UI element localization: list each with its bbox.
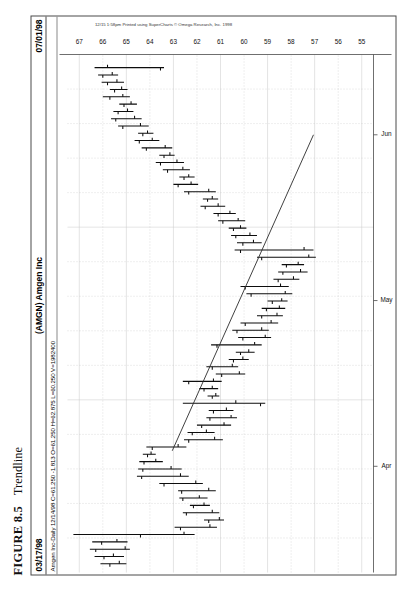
ohlc-bar: [273, 276, 299, 282]
ohlc-bar: [134, 137, 159, 143]
ohlc-bar: [213, 210, 235, 216]
ohlc-bar: [232, 327, 268, 333]
ohlc-bar: [231, 232, 257, 238]
ohlc-bar: [184, 188, 216, 194]
chart-end-date: 07/01/98: [33, 19, 43, 52]
copyright-note: 12/15 1:58pm Printed using SuperCharts ©…: [94, 21, 232, 26]
ohlc-bar: [182, 378, 221, 384]
ohlc-bar: [89, 546, 129, 552]
ohlc-bar: [92, 538, 127, 544]
ohlc-bar: [202, 196, 217, 202]
ohlc-bar: [211, 341, 262, 347]
ohlc-bars-group: [73, 64, 315, 566]
price-axis-tick-label: 55: [358, 38, 366, 45]
ohlc-bar: [159, 480, 203, 486]
price-axis-tick-label: 56: [334, 38, 342, 45]
ohlc-bar: [256, 312, 282, 318]
price-axis-tick-label: 67: [75, 38, 83, 45]
ohlc-bar: [101, 79, 123, 85]
ohlc-bar: [142, 451, 155, 457]
ohlc-bar: [138, 130, 153, 136]
ohlc-bar: [73, 531, 194, 537]
figure-caption: FIGURE 8.5Trendline: [10, 446, 25, 575]
chart-header-bar: 03/17/98 (AMGN) Amgen Inc 07/01/98: [31, 16, 46, 574]
ohlc-bar: [98, 72, 118, 78]
ohlc-bar: [102, 93, 129, 99]
gridlines-group: [67, 54, 373, 572]
ohlc-bar: [187, 429, 214, 435]
price-axis-tick-label: 57: [311, 38, 319, 45]
ohlc-bar: [179, 495, 207, 501]
price-axis-tick-label: 60: [240, 38, 248, 45]
price-axis-tick-label: 62: [193, 38, 201, 45]
ohlc-bar: [184, 436, 223, 442]
ohlc-bar: [138, 465, 182, 471]
ohlc-bar: [200, 203, 225, 209]
ohlc-bar: [162, 166, 189, 172]
ohlc-bar: [215, 371, 244, 377]
ohlc-bar: [240, 320, 278, 326]
ohlc-bar: [218, 217, 245, 223]
ohlc-bar: [235, 349, 254, 355]
chart-start-date: 03/17/98: [33, 538, 43, 571]
quote-status-strip: Amgen Inc-Daily 12/14/98 C=61.250 -1.813…: [46, 16, 57, 574]
plot-area: 67666564636261605958575655 AprMayJun 12/…: [57, 16, 395, 574]
quote-line-text: Amgen Inc-Daily 12/14/98 C=61.250 -1.813…: [48, 340, 55, 571]
price-axis-labels: 67666564636261605958575655: [75, 38, 365, 45]
time-axis-label: Jun: [381, 130, 392, 137]
ohlc-bar: [100, 560, 126, 566]
ohlc-bar: [146, 444, 186, 450]
price-axis-tick-label: 63: [169, 38, 177, 45]
ohlc-bar: [179, 174, 194, 180]
ohlc-bar: [119, 101, 137, 107]
ohlc-bar: [113, 108, 133, 114]
ohlc-bar: [94, 64, 163, 70]
figure-number: FIGURE 8.5: [10, 506, 24, 575]
ohlc-bar: [238, 334, 271, 340]
axis-group: [59, 54, 391, 572]
ohlc-bar: [189, 502, 209, 508]
price-axis-tick-label: 61: [216, 38, 224, 45]
ohlc-bar: [228, 356, 248, 362]
ohlc-bar: [111, 115, 142, 121]
time-axis-labels: AprMayJun: [380, 130, 393, 470]
ohlc-chart-svg: 67666564636261605958575655 AprMayJun 12/…: [57, 16, 395, 574]
price-axis-tick-label: 64: [146, 38, 154, 45]
rotated-page-wrapper: FIGURE 8.5Trendline 03/17/98 (AMGN) Amge…: [0, 0, 407, 589]
ohlc-bar: [207, 393, 219, 399]
ohlc-bar: [182, 509, 218, 515]
ohlc-bar: [278, 268, 307, 274]
ohlc-bar: [236, 239, 261, 245]
ohlc-bar: [267, 298, 287, 304]
ohlc-bar: [234, 247, 313, 253]
ohlc-bar: [94, 553, 123, 559]
price-axis-tick-label: 65: [122, 38, 130, 45]
ohlc-bar: [173, 181, 198, 187]
ohlc-bar: [228, 225, 246, 231]
ohlc-bar: [246, 290, 292, 296]
ohlc-bar: [261, 305, 285, 311]
ohlc-bar: [196, 422, 230, 428]
price-axis-tick-label: 59: [264, 38, 272, 45]
ohlc-bar: [136, 473, 188, 479]
copyright-text: 12/15 1:58pm Printed using SuperCharts ©…: [94, 21, 232, 26]
ohlc-bar: [141, 144, 172, 150]
time-axis-label: May: [380, 296, 393, 304]
ohlc-bar: [139, 458, 163, 464]
time-axis-label: Apr: [381, 461, 392, 469]
ohlc-bar: [256, 254, 315, 260]
ohlc-bar: [281, 261, 303, 267]
ohlc-bar: [159, 152, 174, 158]
ohlc-bar: [155, 159, 183, 165]
ohlc-bar: [174, 524, 216, 530]
ohlc-bar: [206, 414, 237, 420]
price-axis-tick-label: 58: [287, 38, 295, 45]
ohlc-bar: [178, 487, 216, 493]
chart-symbol-name: (AMGN) Amgen Inc: [33, 256, 43, 333]
price-axis-tick-label: 66: [99, 38, 107, 45]
ohlc-bar: [109, 86, 127, 92]
chart-window: 03/17/98 (AMGN) Amgen Inc 07/01/98 Amgen…: [30, 15, 396, 575]
figure-title: Trendline: [10, 446, 24, 494]
